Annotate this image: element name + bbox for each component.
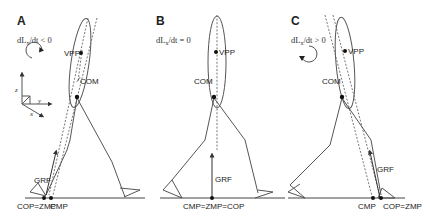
svg-text:COP=ZMP: COP=ZMP (383, 202, 422, 211)
cop-point (379, 196, 383, 200)
counter-clockwise-rotation-icon (299, 46, 317, 62)
panel-b-label: B (156, 14, 165, 28)
svg-text:VPP: VPP (348, 47, 364, 56)
panel-a-label: A (17, 14, 26, 28)
cmp-point (49, 196, 53, 200)
svg-text:CMP=ZMP=COP: CMP=ZMP=COP (183, 202, 244, 211)
vpp-point (343, 49, 347, 53)
cmp-point (371, 196, 375, 200)
panel-b: B dLx/dt = 0 VPP COM GRF CMP=ZMP=COP (156, 14, 285, 211)
svg-text:z: z (14, 86, 18, 94)
svg-text:GRF: GRF (34, 176, 51, 185)
cmp-zmp-cop-point (210, 196, 214, 200)
panel-c-equation: dLx/dt > 0 (291, 35, 326, 46)
panel-a: A dLx/dt < 0 z y x (14, 14, 145, 211)
cop-point (42, 196, 46, 200)
hip-point (340, 95, 344, 99)
trunk-ellipse (65, 17, 95, 109)
svg-text:VPP: VPP (219, 48, 235, 57)
svg-text:CMP: CMP (358, 202, 376, 211)
svg-text:VPP: VPP (64, 49, 80, 58)
vpp-point (214, 50, 218, 54)
panel-a-equation: dLx/dt < 0 (17, 35, 52, 46)
coordinate-axes-icon: z y x (14, 74, 50, 118)
svg-text:GRF: GRF (215, 175, 232, 184)
svg-text:CMP: CMP (50, 202, 68, 211)
svg-text:COM: COM (322, 77, 341, 86)
panel-b-equation: dLx/dt = 0 (156, 35, 191, 46)
hip-point (212, 95, 216, 99)
svg-text:COM: COM (80, 77, 99, 86)
hip-point (75, 95, 79, 99)
svg-text:GRF: GRF (377, 165, 394, 174)
biped-diagram: A dLx/dt < 0 z y x (0, 0, 430, 222)
svg-text:COM: COM (194, 77, 213, 86)
panel-c-label: C (291, 14, 300, 28)
panel-c: C dLx/dt > 0 VPP COM GRF CMP COP=ZMP (288, 14, 422, 211)
